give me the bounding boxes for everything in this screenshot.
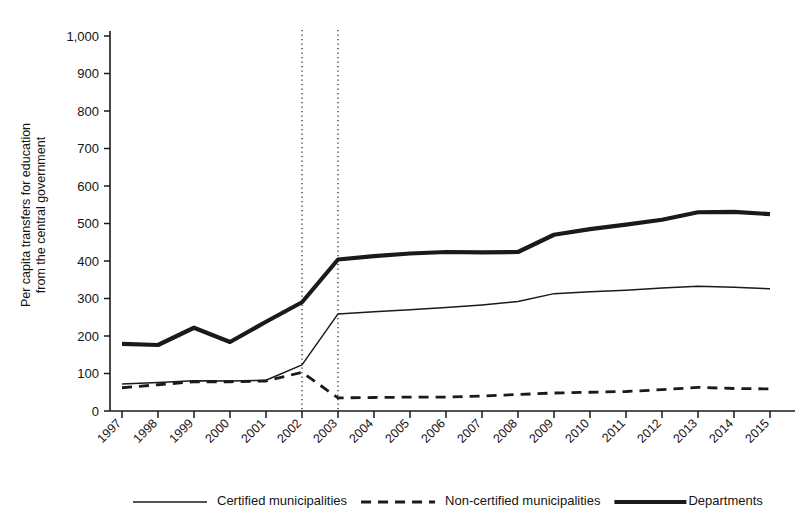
y-tick-label: 500	[77, 216, 99, 231]
series-line-2	[122, 212, 770, 345]
x-tick-label: 1999	[167, 416, 197, 446]
x-tick-label: 2004	[347, 416, 377, 446]
x-tick-label: 2013	[671, 416, 701, 446]
chart-container: Per capita transfers for education from …	[0, 0, 809, 523]
x-axis-ticks: 1997199819992000200120022003200420052006…	[95, 411, 773, 446]
y-tick-label: 0	[92, 404, 99, 419]
x-tick-label: 2003	[311, 416, 341, 446]
y-tick-label: 700	[77, 141, 99, 156]
x-tick-label: 2009	[527, 416, 557, 446]
legend-label-1: Non-certified municipalities	[445, 493, 601, 508]
legend-label-2: Departments	[688, 493, 763, 508]
x-tick-label: 2001	[239, 416, 269, 446]
x-tick-label: 2012	[635, 416, 665, 446]
x-tick-label: 2005	[383, 416, 413, 446]
y-tick-label: 300	[77, 291, 99, 306]
annotation-lines	[302, 30, 338, 411]
x-tick-label: 2002	[275, 416, 305, 446]
x-tick-label: 1998	[131, 416, 161, 446]
chart-legend: Certified municipalitiesNon-certified mu…	[133, 493, 763, 508]
x-tick-label: 2008	[491, 416, 521, 446]
y-tick-label: 200	[77, 329, 99, 344]
x-tick-label: 2010	[563, 416, 593, 446]
x-tick-label: 2000	[203, 416, 233, 446]
x-tick-label: 2006	[419, 416, 449, 446]
y-tick-label: 1,000	[66, 29, 99, 44]
x-tick-label: 2015	[743, 416, 773, 446]
legend-label-0: Certified municipalities	[217, 493, 348, 508]
series-line-1	[122, 372, 770, 398]
y-tick-label: 100	[77, 366, 99, 381]
y-tick-label: 400	[77, 254, 99, 269]
series-line-0	[122, 286, 770, 384]
x-tick-label: 2007	[455, 416, 485, 446]
y-tick-label: 600	[77, 179, 99, 194]
x-tick-label: 2011	[599, 416, 628, 445]
y-axis-ticks: 01002003004005006007008009001,000	[66, 29, 110, 419]
series-lines	[122, 212, 770, 398]
x-tick-label: 2014	[707, 416, 737, 446]
y-tick-label: 900	[77, 66, 99, 81]
y-tick-label: 800	[77, 104, 99, 119]
plot-area: 01002003004005006007008009001,000 199719…	[0, 0, 809, 523]
x-tick-label: 1997	[95, 416, 125, 446]
